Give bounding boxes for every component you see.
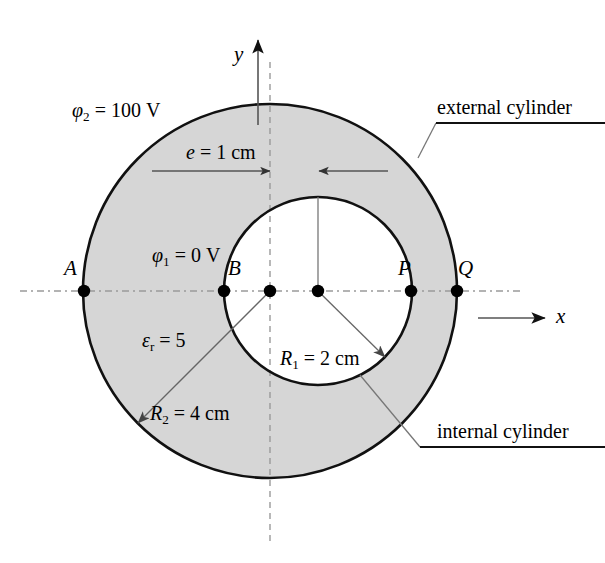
point-B-dot (218, 285, 230, 297)
label-epsilon-r: εr = 5 (142, 330, 186, 353)
label-R1-sub: 1 (292, 357, 299, 372)
label-e-value: = 1 cm (195, 141, 256, 163)
label-R1-value: = 2 cm (299, 347, 360, 369)
internal-cylinder-label: internal cylinder (437, 421, 569, 441)
label-R2-sub: 2 (162, 412, 169, 427)
label-phi1: φ1 = 0 V (152, 245, 220, 268)
label-phi1-value: = 0 V (170, 244, 221, 266)
label-phi2-sub: 2 (83, 109, 90, 124)
label-epsilon-value: = 5 (154, 329, 185, 351)
dielectric-region (0, 0, 605, 563)
point-P-dot (405, 285, 417, 297)
label-R2-value: = 4 cm (169, 402, 230, 424)
point-label-A: A (64, 258, 77, 279)
label-epsilon-symbol: ε (142, 329, 150, 351)
point-A-dot (78, 285, 90, 297)
label-phi2-symbol: φ (72, 99, 83, 121)
label-R1-symbol: R (280, 347, 292, 369)
figure-canvas (0, 0, 605, 563)
physics-figure: φ2 = 100 V e = 1 cm φ1 = 0 V εr = 5 R1 =… (0, 0, 605, 563)
y-axis-label: y (234, 44, 243, 65)
label-e: e = 1 cm (186, 142, 256, 162)
inner-center-dot (312, 285, 324, 297)
point-Q-dot (451, 285, 463, 297)
label-R2: R2 = 4 cm (150, 403, 230, 426)
label-e-symbol: e (186, 141, 195, 163)
outer-center-dot (264, 285, 276, 297)
label-phi2: φ2 = 100 V (72, 100, 160, 123)
point-label-Q: Q (458, 258, 473, 279)
external-cylinder-label: external cylinder (437, 97, 572, 117)
label-R1: R1 = 2 cm (280, 348, 360, 371)
label-phi1-symbol: φ (152, 244, 163, 266)
point-label-P: P (398, 258, 411, 279)
point-label-B: B (228, 258, 241, 279)
x-axis-label: x (556, 306, 565, 327)
label-phi2-value: = 100 V (90, 99, 161, 121)
label-phi1-sub: 1 (163, 254, 170, 269)
label-R2-symbol: R (150, 402, 162, 424)
